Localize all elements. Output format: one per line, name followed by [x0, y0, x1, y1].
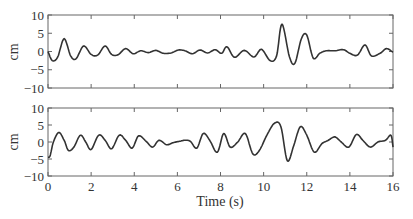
y-tick-label: 10	[31, 8, 44, 23]
bottom-y-ticks: −10−50510	[24, 101, 393, 184]
bottom-x-ticks: 0246810121416	[45, 108, 400, 194]
y-tick-label: 0	[38, 135, 45, 150]
x-axis-label: Time (s)	[196, 194, 244, 210]
top-y-axis-label: cm	[6, 43, 21, 60]
y-tick-label: 5	[38, 118, 45, 133]
bottom-series-line	[48, 122, 393, 161]
bottom-y-axis-label: cm	[6, 133, 21, 150]
displacement-chart: −10−50510 cm −10−50510 0246810121416 cm …	[0, 0, 413, 219]
x-tick-label: 4	[131, 179, 138, 194]
x-tick-label: 2	[88, 179, 95, 194]
y-tick-label: 0	[38, 44, 45, 59]
x-tick-label: 0	[45, 179, 52, 194]
top-y-ticks: −10−50510	[24, 8, 393, 96]
y-tick-label: −10	[24, 169, 44, 184]
y-tick-label: −10	[24, 81, 44, 96]
x-tick-label: 16	[387, 179, 401, 194]
y-tick-label: 5	[38, 26, 45, 41]
x-tick-label: 8	[217, 179, 224, 194]
bottom-panel: −10−50510 0246810121416 cm Time (s)	[6, 101, 400, 211]
x-tick-label: 10	[257, 179, 270, 194]
y-tick-label: −5	[30, 62, 44, 77]
y-tick-label: 10	[31, 101, 44, 116]
y-tick-label: −5	[30, 152, 44, 167]
top-series-line	[48, 24, 393, 64]
x-tick-label: 6	[174, 179, 181, 194]
x-tick-label: 12	[300, 179, 313, 194]
x-tick-label: 14	[343, 179, 357, 194]
top-panel: −10−50510 cm	[6, 8, 393, 96]
